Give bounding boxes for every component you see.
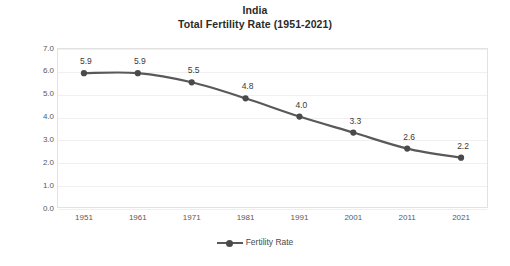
y-axis-tick-label: 5.0	[28, 89, 54, 98]
y-axis-tick-label: 6.0	[28, 66, 54, 75]
x-axis-tick-label: 1961	[118, 212, 158, 223]
y-axis-tick-label: 7.0	[28, 44, 54, 53]
data-point-marker[interactable]	[458, 155, 464, 161]
legend-item-fertility-rate[interactable]: Fertility Rate	[217, 237, 294, 247]
data-point-marker[interactable]	[81, 70, 87, 76]
y-axis-tick-label: 3.0	[28, 135, 54, 144]
x-axis-tick-label: 2011	[387, 212, 427, 223]
data-point-marker[interactable]	[189, 79, 195, 85]
y-axis-tick-label: 4.0	[28, 112, 54, 121]
y-axis-tick-label: 0.0	[28, 204, 54, 213]
data-point-marker[interactable]	[404, 145, 410, 151]
x-axis-tick-label: 2021	[441, 212, 481, 223]
y-axis-tick-labels: 7.06.05.04.03.02.01.00.0	[24, 48, 54, 208]
legend-item-label: Fertility Rate	[246, 237, 294, 247]
gridline	[58, 209, 487, 210]
x-axis-tick-label: 1991	[279, 212, 319, 223]
x-axis-tick-label: 1951	[64, 212, 104, 223]
x-axis-tick-label: 1971	[172, 212, 212, 223]
y-axis-tick-label: 2.0	[28, 158, 54, 167]
legend-line-marker-icon	[217, 237, 243, 247]
x-axis-tick-label: 2001	[333, 212, 373, 223]
series-fertility-rate	[57, 48, 488, 208]
x-axis-tick-labels: 19511961197119811991200120112021	[57, 212, 488, 226]
chart-title: India Total Fertility Rate (1951-2021)	[0, 3, 510, 31]
fertility-rate-line-chart: India Total Fertility Rate (1951-2021) T…	[0, 0, 510, 266]
data-point-marker[interactable]	[296, 113, 302, 119]
data-point-marker[interactable]	[350, 129, 356, 135]
data-point-marker[interactable]	[135, 70, 141, 76]
data-point-marker[interactable]	[242, 95, 248, 101]
series-line	[84, 72, 461, 157]
x-axis-tick-label: 1981	[226, 212, 266, 223]
chart-title-line-2: Total Fertility Rate (1951-2021)	[0, 17, 510, 31]
y-axis-tick-label: 1.0	[28, 181, 54, 190]
chart-title-line-1: India	[242, 4, 267, 16]
chart-legend: Fertility Rate	[0, 234, 510, 250]
